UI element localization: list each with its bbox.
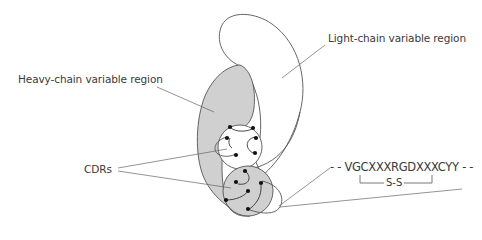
sequence-leader-upper (279, 168, 330, 206)
disulfide-label: S-S (384, 177, 404, 188)
sequence-label: - - VGCXXXRGDXXXCYY - - (330, 160, 473, 174)
sequence-leader-lower (280, 189, 462, 207)
light-chain-label: Light-chain variable region (328, 32, 466, 44)
heavy-chain-label: Heavy-chain variable region (18, 73, 163, 85)
upper-cdr-domain (218, 125, 262, 169)
cdrs-label: CDRs (84, 163, 112, 175)
